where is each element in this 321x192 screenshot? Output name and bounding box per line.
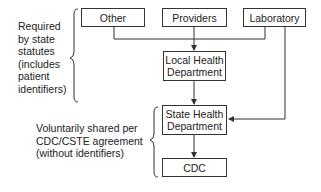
cdc-label: CDC	[183, 162, 206, 174]
required-line: statutes	[18, 45, 66, 58]
voluntary-line: (without identifiers)	[36, 147, 143, 160]
cdc-box: CDC	[162, 158, 227, 177]
other-label: Other	[100, 12, 126, 24]
local-line1: Local Health	[165, 54, 223, 66]
local-line2: Department	[167, 66, 222, 78]
state-line1: State Health	[166, 108, 224, 120]
required-annotation: Required by state statutes (includes pat…	[18, 20, 66, 95]
other-box: Other	[81, 8, 145, 27]
voluntary-line: CDC/CSTE agreement	[36, 135, 143, 148]
laboratory-box: Laboratory	[243, 8, 306, 27]
required-line: by state	[18, 33, 66, 46]
required-line: patient	[18, 70, 66, 83]
state-line2: Department	[167, 120, 222, 132]
voluntary-annotation: Voluntarily shared per CDC/CSTE agreemen…	[36, 122, 143, 160]
required-line: (includes	[18, 58, 66, 71]
required-line: Required	[18, 20, 66, 33]
providers-box: Providers	[162, 8, 227, 27]
providers-label: Providers	[172, 12, 216, 24]
voluntary-line: Voluntarily shared per	[36, 122, 143, 135]
laboratory-label: Laboratory	[249, 12, 299, 24]
local-health-department-box: Local Health Department	[163, 51, 226, 81]
required-line: identifiers)	[18, 83, 66, 96]
state-health-department-box: State Health Department	[162, 105, 227, 135]
